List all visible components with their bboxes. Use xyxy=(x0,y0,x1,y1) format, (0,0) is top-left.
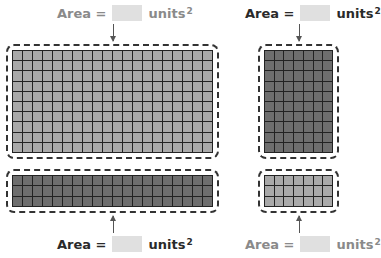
unit-square xyxy=(53,133,62,142)
unit-square xyxy=(33,143,42,152)
unit-square xyxy=(275,82,284,91)
unit-square xyxy=(163,82,172,91)
unit-square xyxy=(93,61,102,70)
exponent: 2 xyxy=(374,237,380,247)
unit-square xyxy=(323,186,332,195)
area-label-top-left: Area = units2 xyxy=(57,5,193,21)
unit-square xyxy=(284,122,293,131)
unit-square xyxy=(294,82,303,91)
unit-square xyxy=(153,186,162,195)
unit-square xyxy=(265,197,274,206)
units-label: units xyxy=(148,6,185,21)
unit-square xyxy=(173,143,182,152)
unit-square xyxy=(294,102,303,111)
unit-square xyxy=(83,51,92,60)
unit-square xyxy=(63,102,72,111)
unit-square xyxy=(143,122,152,131)
unit-square xyxy=(323,51,332,60)
unit-square xyxy=(173,133,182,142)
unit-square xyxy=(73,133,82,142)
unit-square xyxy=(43,92,52,101)
unit-square xyxy=(275,133,284,142)
unit-square xyxy=(143,176,152,185)
unit-square xyxy=(163,61,172,70)
unit-square xyxy=(183,176,192,185)
unit-square xyxy=(73,122,82,131)
unit-square xyxy=(123,112,132,121)
unit-square xyxy=(43,176,52,185)
unit-square xyxy=(284,112,293,121)
unit-square xyxy=(153,102,162,111)
unit-square xyxy=(83,143,92,152)
unit-square xyxy=(294,186,303,195)
unit-square xyxy=(275,122,284,131)
unit-square xyxy=(13,133,22,142)
unit-square xyxy=(275,61,284,70)
unit-square xyxy=(323,112,332,121)
unit-square xyxy=(183,143,192,152)
unit-square xyxy=(275,71,284,80)
answer-box[interactable] xyxy=(112,5,142,21)
unit-square xyxy=(13,102,22,111)
unit-square xyxy=(193,61,202,70)
unit-square xyxy=(53,71,62,80)
unit-square xyxy=(304,102,313,111)
unit-square xyxy=(123,61,132,70)
unit-square xyxy=(133,61,142,70)
answer-box[interactable] xyxy=(300,5,330,21)
unit-square xyxy=(73,197,82,206)
unit-square xyxy=(73,143,82,152)
unit-square xyxy=(103,197,112,206)
unit-square xyxy=(33,112,42,121)
unit-square xyxy=(63,92,72,101)
unit-square xyxy=(143,197,152,206)
unit-square xyxy=(153,71,162,80)
unit-square xyxy=(304,176,313,185)
unit-square xyxy=(63,143,72,152)
unit-square xyxy=(294,51,303,60)
exponent: 2 xyxy=(374,6,380,16)
unit-square xyxy=(23,143,32,152)
unit-square xyxy=(323,92,332,101)
unit-square xyxy=(173,102,182,111)
unit-square xyxy=(323,197,332,206)
unit-square xyxy=(23,92,32,101)
unit-square xyxy=(163,143,172,152)
unit-square xyxy=(294,71,303,80)
unit-square xyxy=(133,51,142,60)
unit-square xyxy=(123,176,132,185)
unit-square xyxy=(123,92,132,101)
unit-square xyxy=(113,176,122,185)
unit-square xyxy=(53,143,62,152)
unit-square xyxy=(33,51,42,60)
unit-square xyxy=(113,92,122,101)
unit-square xyxy=(73,92,82,101)
unit-square xyxy=(265,122,274,131)
unit-square xyxy=(103,112,112,121)
unit-square xyxy=(153,51,162,60)
unit-square xyxy=(103,133,112,142)
unit-square xyxy=(173,112,182,121)
unit-square xyxy=(275,197,284,206)
unit-square xyxy=(314,92,323,101)
unit-square xyxy=(153,176,162,185)
unit-square xyxy=(103,176,112,185)
area-prefix: Area = xyxy=(245,6,294,21)
unit-square xyxy=(323,102,332,111)
grid-bottom-left xyxy=(12,175,213,207)
unit-square xyxy=(284,176,293,185)
unit-square xyxy=(73,51,82,60)
area-prefix: Area = xyxy=(245,237,294,252)
unit-square xyxy=(113,112,122,121)
unit-square xyxy=(183,102,192,111)
unit-square xyxy=(53,82,62,91)
unit-square xyxy=(93,102,102,111)
unit-square xyxy=(103,122,112,131)
unit-square xyxy=(133,92,142,101)
unit-square xyxy=(265,133,274,142)
answer-box[interactable] xyxy=(300,236,330,252)
unit-square xyxy=(93,71,102,80)
unit-square xyxy=(304,197,313,206)
unit-square xyxy=(123,197,132,206)
answer-box[interactable] xyxy=(112,236,142,252)
